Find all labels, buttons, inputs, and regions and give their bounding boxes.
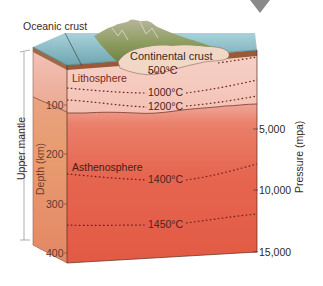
pressure-axis-label: Pressure (mpa) [294, 121, 305, 193]
isotherm-label-1400: 1400°C [148, 174, 183, 185]
pressure-tick-5000: 5,000 [259, 124, 285, 135]
diagram-stage: Oceanic crust Continental crust Lithosph… [0, 0, 323, 286]
isotherm-label-1200: 1200°C [148, 101, 183, 112]
depth-tick-300: 300 [46, 199, 64, 210]
isotherm-label-1450: 1450°C [148, 219, 183, 230]
asthenosphere-label: Asthenosphere [72, 162, 143, 173]
mantle-block-illustration [0, 0, 323, 286]
pressure-tick-15000: 15,000 [259, 247, 291, 258]
depth-axis-label: Depth (km) [35, 143, 46, 195]
upper-mantle-label: Upper mantle [16, 117, 27, 180]
isotherm-label-1000: 1000°C [148, 87, 183, 98]
isotherm-label-500: 500°C [148, 65, 177, 76]
continental-crust-label: Continental crust [130, 51, 213, 62]
depth-tick-400: 400 [46, 248, 64, 259]
lithosphere-label: Lithosphere [72, 73, 127, 84]
oceanic-crust-label: Oceanic crust [23, 21, 87, 32]
depth-tick-100: 100 [46, 100, 64, 111]
pressure-tick-10000: 10,000 [259, 185, 291, 196]
depth-tick-200: 200 [46, 149, 64, 160]
down-arrow-marker-icon [250, 0, 270, 13]
